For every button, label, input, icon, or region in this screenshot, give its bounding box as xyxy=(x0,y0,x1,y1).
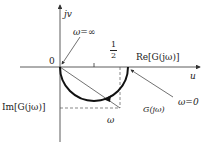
half-numerator: 1 xyxy=(111,41,116,49)
jv-label: jv xyxy=(64,10,72,19)
nyquist-curve xyxy=(60,67,128,101)
re-label: Re[G(jω)] xyxy=(136,53,179,62)
origin-label: 0 xyxy=(49,57,55,66)
g-point-label: G(jω) xyxy=(143,106,165,114)
g-vector xyxy=(60,67,120,108)
omega-zero-label: ω=0 xyxy=(178,98,199,107)
im-label: Im[G(jω)] xyxy=(2,103,45,112)
direction-arrow-icon xyxy=(103,96,111,103)
omega-zero-pointer xyxy=(131,70,173,97)
u-axis-label: u xyxy=(190,72,196,81)
omega-inf-label: ω=∞ xyxy=(73,28,95,37)
omega-inf-pointer xyxy=(62,37,80,64)
omega-direction-label: ω xyxy=(107,116,114,125)
half-denominator: 2 xyxy=(111,52,116,60)
